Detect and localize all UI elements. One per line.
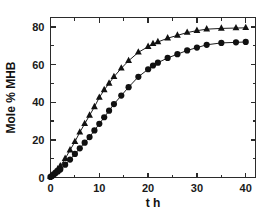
data-point-circle (204, 42, 210, 48)
x-tick-label: 30 (191, 182, 203, 194)
x-tick-label: 20 (142, 182, 154, 194)
y-tick-label: 20 (32, 134, 44, 146)
data-point-circle (101, 114, 107, 120)
data-point-circle (155, 60, 161, 66)
data-point-circle (62, 162, 68, 168)
x-axis-title: t h (146, 196, 161, 210)
data-point-circle (174, 51, 180, 57)
data-point-triangle (233, 24, 240, 30)
y-tick-label: 60 (32, 59, 44, 71)
data-point-circle (135, 74, 141, 80)
series-line-triangle-series (51, 28, 246, 177)
y-tick-label: 0 (38, 172, 44, 184)
data-point-circle (106, 108, 112, 114)
data-point-triangle (91, 103, 98, 109)
y-tick-label: 80 (32, 21, 44, 33)
data-point-circle (57, 166, 63, 172)
data-point-triangle (242, 24, 249, 30)
data-point-circle (118, 93, 124, 99)
x-tick-label: 0 (47, 182, 53, 194)
data-point-circle (96, 121, 102, 127)
data-point-circle (145, 66, 151, 72)
data-series-layer (47, 24, 249, 180)
x-tick-label: 40 (240, 182, 252, 194)
y-axis-title: Mole % MHB (4, 61, 18, 133)
data-point-triangle (203, 25, 210, 31)
data-point-circle (111, 101, 117, 107)
data-point-circle (243, 39, 249, 45)
y-tick-label: 40 (32, 96, 44, 108)
data-point-circle (184, 47, 190, 53)
data-point-circle (233, 39, 239, 45)
data-point-circle (218, 40, 224, 46)
data-point-circle (72, 151, 78, 157)
data-point-circle (194, 45, 200, 51)
data-point-circle (126, 84, 132, 90)
data-point-triangle (125, 57, 132, 63)
data-point-triangle (218, 24, 225, 30)
data-point-triangle (194, 27, 201, 33)
x-tick-label: 10 (93, 182, 105, 194)
data-point-triangle (72, 138, 79, 144)
data-point-circle (77, 145, 83, 151)
series-line-circle-series (51, 42, 246, 177)
data-point-circle (67, 157, 73, 163)
axis-label-layer: 010203040020406080t hMole % MHB (4, 21, 252, 210)
chart-plot-area: 010203040020406080t hMole % MHB (0, 0, 273, 214)
data-point-circle (82, 140, 88, 146)
chart-figure: 010203040020406080t hMole % MHB (0, 0, 273, 214)
data-point-circle (91, 127, 97, 133)
data-point-circle (86, 134, 92, 140)
data-point-circle (165, 55, 171, 61)
